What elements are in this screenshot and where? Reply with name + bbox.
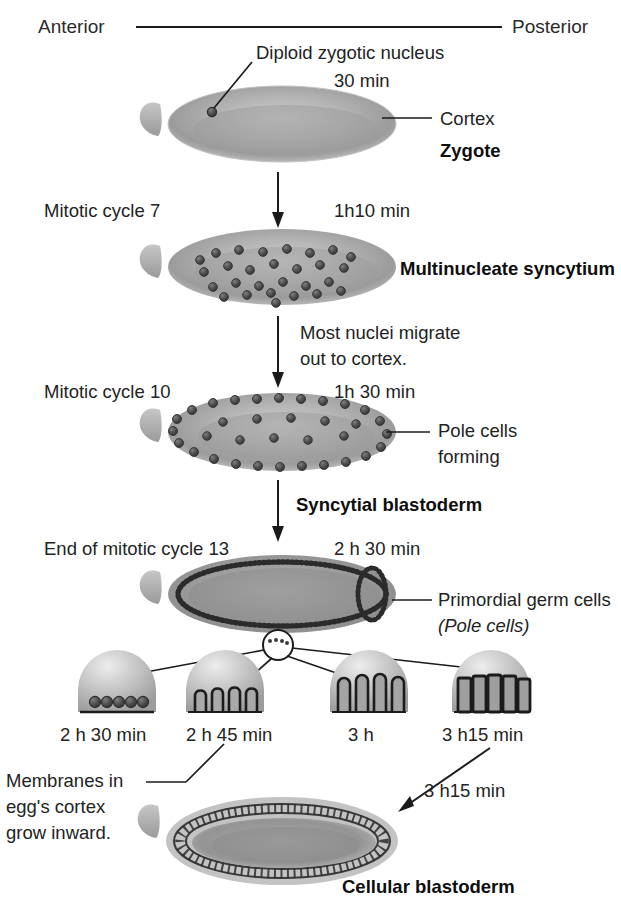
syncytial-blastoderm-stage-name: Syncytial blastoderm (296, 494, 482, 516)
cortex-label: Cortex (440, 108, 495, 130)
leader-membranes-grow-inward (146, 744, 224, 782)
migrate-note-line1: Most nuclei migrate (300, 322, 460, 344)
detail-panel-4-time: 3 h15 min (442, 724, 523, 746)
zygote-stage-name: Zygote (440, 140, 501, 162)
diploid-zygotic-nucleus-dot (207, 107, 216, 116)
cellular-blastoderm-time-label: 3 h15 min (424, 780, 505, 802)
multinucleate-syncytium-stage-name: Multinucleate syncytium (400, 258, 615, 280)
end-of-mitotic-cycle-13-label: End of mitotic cycle 13 (44, 538, 229, 560)
stage-primordial-germ-cells-illustration (140, 555, 470, 676)
stage-syncytial-blastoderm-illustration (140, 393, 430, 472)
membranes-caption-line2: egg's cortex (6, 796, 105, 818)
pole-cells-forming-line1: Pole cells (438, 420, 517, 442)
arrow-zygote-to-syncytium (272, 172, 284, 228)
membranes-caption-line3: grow inward. (6, 822, 111, 844)
migrate-note-line2: out to cortex. (300, 348, 407, 370)
posterior-label: Posterior (512, 16, 588, 38)
germ-cells-time-label: 2 h 30 min (334, 538, 420, 560)
mitotic-cycle-10-label: Mitotic cycle 10 (44, 381, 170, 403)
membranes-caption-line1: Membranes in (6, 770, 123, 792)
arrow-syncytium-to-blastoderm (272, 316, 284, 388)
mitotic-cycle-7-label: Mitotic cycle 7 (44, 200, 160, 222)
diploid-zygotic-nucleus-label: Diploid zygotic nucleus (256, 42, 444, 64)
detail-panel-2-illustration (186, 650, 264, 712)
cellular-blastoderm-stage-name: Cellular blastoderm (342, 876, 515, 898)
pole-cells-italic-label: (Pole cells) (438, 615, 530, 637)
detail-panel-3-time: 3 h (348, 724, 374, 746)
figure-canvas: Anterior Posterior Diploid zygotic nucle… (0, 0, 621, 907)
stage-multinucleate-syncytium-illustration (140, 229, 396, 307)
primordial-germ-cells-label: Primordial germ cells (438, 589, 611, 611)
detail-panel-1-illustration (78, 650, 156, 712)
syncytium-time-label: 1h10 min (334, 200, 410, 222)
syncytial-blastoderm-time-label: 1h 30 min (334, 381, 415, 403)
anterior-label: Anterior (38, 16, 105, 38)
pole-cells-forming-line2: forming (438, 446, 500, 468)
magnifier-circle-callout (263, 630, 293, 660)
detail-panel-1-time: 2 h 30 min (60, 724, 146, 746)
arrow-blastoderm-to-cycle13 (272, 480, 284, 542)
zygote-time-label: 30 min (334, 70, 390, 92)
stage-cellular-blastoderm-illustration (138, 797, 398, 885)
detail-panel-4-illustration (452, 650, 530, 712)
detail-panel-2-time: 2 h 45 min (186, 724, 272, 746)
